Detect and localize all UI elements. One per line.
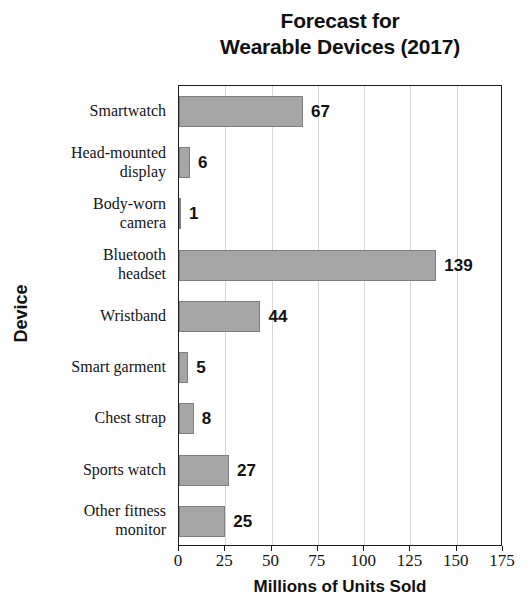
bar-band: 25 — [179, 496, 501, 547]
bars-layer: 676113944582725 — [179, 86, 501, 545]
category-label: Sports watch — [0, 444, 166, 495]
bar-value-label: 139 — [444, 250, 472, 281]
category-label-line: Bluetooth — [103, 245, 166, 264]
x-tick-label: 50 — [262, 551, 279, 571]
bar-value-label: 8 — [202, 403, 211, 434]
bar-band: 67 — [179, 86, 501, 137]
bar[interactable] — [179, 506, 225, 537]
category-label: Bluetoothheadset — [0, 239, 166, 290]
category-axis-labels: SmartwatchHead-mounteddisplayBody-wornca… — [0, 85, 172, 546]
chart-title-line-2: Wearable Devices (2017) — [178, 34, 502, 60]
bar-band: 8 — [179, 393, 501, 444]
x-tick-label: 150 — [443, 551, 469, 571]
x-tick-label: 175 — [489, 551, 515, 571]
category-label: Chest strap — [0, 392, 166, 443]
plot-area: 676113944582725 — [178, 85, 502, 546]
bar-value-label: 27 — [237, 455, 256, 486]
category-label: Other fitnessmonitor — [0, 495, 166, 546]
category-label-line: camera — [120, 213, 166, 232]
category-label-line: Chest strap — [94, 408, 166, 427]
bar-value-label: 6 — [198, 147, 207, 178]
bar[interactable] — [179, 250, 436, 281]
bar-value-label: 1 — [189, 198, 198, 229]
category-label-line: Wristband — [100, 306, 166, 325]
bar[interactable] — [179, 147, 190, 178]
category-label-line: Sports watch — [83, 460, 166, 479]
x-tick-label: 125 — [397, 551, 423, 571]
bar-value-label: 25 — [233, 506, 252, 537]
value-axis-ticks: 0255075100125150175 — [178, 546, 502, 572]
bar-value-label: 44 — [268, 301, 287, 332]
category-label: Smartwatch — [0, 85, 166, 136]
bar[interactable] — [179, 403, 194, 434]
category-label-line: Other fitness — [84, 501, 166, 520]
x-tick-label: 100 — [350, 551, 376, 571]
category-label-line: Smart garment — [71, 357, 166, 376]
x-tick-label: 75 — [308, 551, 325, 571]
category-label: Smart garment — [0, 341, 166, 392]
bar[interactable] — [179, 455, 229, 486]
bar-band: 27 — [179, 445, 501, 496]
chart-title: Forecast for Wearable Devices (2017) — [178, 8, 502, 60]
category-label-line: Head-mounted — [71, 143, 166, 162]
bar-band: 5 — [179, 342, 501, 393]
bar[interactable] — [179, 96, 303, 127]
category-label-line: display — [120, 162, 166, 181]
bar-band: 6 — [179, 137, 501, 188]
bar[interactable] — [179, 352, 188, 383]
category-label: Body-worncamera — [0, 187, 166, 238]
category-label-line: monitor — [115, 520, 166, 539]
bar[interactable] — [179, 198, 181, 229]
bar-value-label: 5 — [196, 352, 205, 383]
x-tick-label: 0 — [174, 551, 183, 571]
category-label: Head-mounteddisplay — [0, 136, 166, 187]
bar-band: 1 — [179, 188, 501, 239]
category-label: Wristband — [0, 290, 166, 341]
bar-value-label: 67 — [311, 96, 330, 127]
bar-band: 139 — [179, 240, 501, 291]
x-axis-title: Millions of Units Sold — [178, 577, 502, 597]
category-label-line: headset — [118, 264, 166, 283]
category-label-line: Body-worn — [93, 194, 166, 213]
x-tick-label: 25 — [216, 551, 233, 571]
bar[interactable] — [179, 301, 260, 332]
chart-figure: Forecast for Wearable Devices (2017) Dev… — [0, 0, 530, 611]
chart-title-line-1: Forecast for — [178, 8, 502, 34]
bar-band: 44 — [179, 291, 501, 342]
category-label-line: Smartwatch — [90, 101, 166, 120]
